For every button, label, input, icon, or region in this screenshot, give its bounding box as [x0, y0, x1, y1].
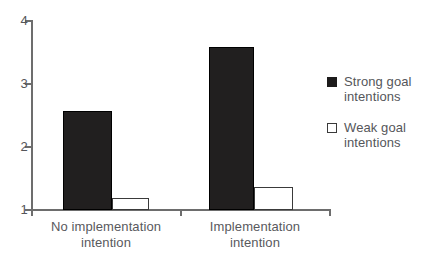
x-category-label-line2: intention	[26, 235, 186, 251]
legend-item-weak-goal-intentions: Weak goal intentions	[327, 120, 436, 150]
legend-label-line1: Weak goal	[344, 120, 406, 135]
y-tick-label-3: 3	[8, 77, 28, 90]
x-category-label-line1: No implementation	[26, 219, 186, 235]
bar-weak-implementation	[254, 187, 293, 210]
legend: Strong goal intentions Weak goal intenti…	[327, 74, 436, 166]
x-category-label-line2: intention	[180, 235, 330, 251]
legend-item-strong-goal-intentions: Strong goal intentions	[327, 74, 436, 104]
bar-weak-no-implementation	[112, 198, 149, 210]
legend-swatch-filled-square-icon	[327, 77, 337, 87]
x-category-label-line1: Implementation	[180, 219, 330, 235]
legend-label-strong-goal-intentions: Strong goal intentions	[344, 74, 412, 104]
x-category-label-implementation-intention: Implementation intention	[180, 219, 330, 251]
legend-swatch-hollow-square-icon	[327, 123, 337, 133]
legend-label-line2: intentions	[344, 89, 401, 104]
bar-strong-implementation	[209, 47, 254, 210]
bar-chart: 4 3 2 1 No implementation intention Impl…	[0, 0, 436, 263]
legend-label-line2: intentions	[344, 135, 401, 150]
x-category-label-no-implementation-intention: No implementation intention	[26, 219, 186, 251]
y-tick-label-1: 1	[8, 203, 28, 216]
y-tick-label-2: 2	[8, 140, 28, 153]
y-axis-line	[31, 20, 33, 211]
legend-label-weak-goal-intentions: Weak goal intentions	[344, 120, 406, 150]
x-tick-mid	[180, 209, 182, 216]
bar-strong-no-implementation	[63, 111, 112, 210]
x-tick-end	[329, 209, 331, 216]
y-tick-label-4: 4	[8, 14, 28, 27]
x-tick-start	[31, 209, 33, 216]
legend-label-line1: Strong goal	[344, 74, 412, 89]
